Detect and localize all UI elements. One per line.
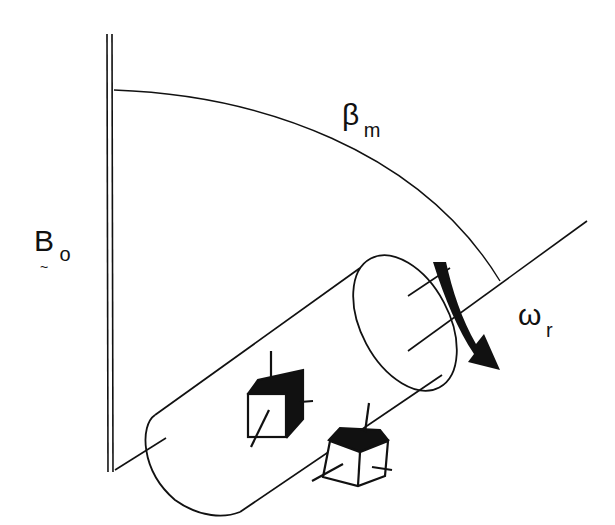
rotation-label-main: ω <box>518 298 541 331</box>
diagram-canvas <box>0 0 615 525</box>
mas-diagram: B ~ o β m ω r <box>0 0 615 525</box>
rotation-label-sub: r <box>546 319 553 341</box>
rotation-arrow-icon <box>433 262 500 370</box>
crystallite-cube-2 <box>312 403 392 486</box>
angle-label: β m <box>342 100 380 130</box>
field-label-tilde: ~ <box>40 260 48 274</box>
angle-arc <box>114 90 500 281</box>
angle-label-main: β <box>342 98 359 131</box>
crystallite-cube-1 <box>248 351 313 447</box>
angle-label-sub: m <box>364 119 381 141</box>
field-label: B ~ o <box>34 226 70 256</box>
field-label-sub: o <box>59 243 70 265</box>
rotor-cylinder <box>145 238 478 516</box>
field-label-main: B <box>34 224 54 257</box>
static-field-axis <box>107 34 113 472</box>
rotation-label: ω r <box>518 300 553 330</box>
